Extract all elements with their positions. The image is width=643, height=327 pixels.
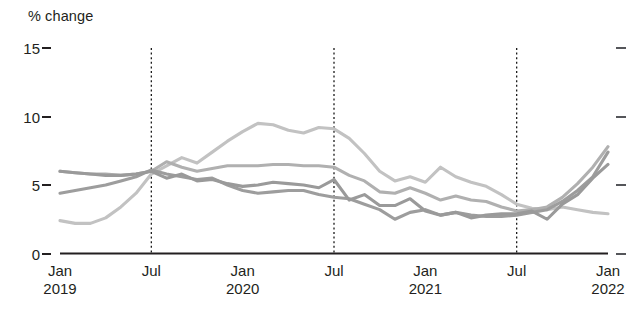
y-tick-mark-10: [42, 116, 51, 118]
x-tick-month: Jan: [596, 262, 620, 279]
line-chart: % change 051015 Jan2019JulJan2020JulJan2…: [0, 0, 643, 327]
x-tick-month: Jan: [48, 262, 72, 279]
y-tick-mark-right-10: [616, 116, 626, 118]
x-tick-label-2020-07: Jul: [324, 262, 343, 280]
y-tick-mark-right-0: [616, 253, 626, 255]
y-tick-mark-5: [42, 184, 51, 186]
y-tick-mark-0: [42, 253, 51, 255]
x-tick-month: Jul: [324, 262, 343, 279]
x-tick-label-2019-01: Jan2019: [43, 262, 76, 297]
x-tick-label-2019-07: Jul: [142, 262, 161, 280]
x-tick-month: Jul: [507, 262, 526, 279]
x-tick-year: 2021: [409, 280, 442, 298]
y-tick-label-10: 10: [0, 108, 40, 125]
x-tick-month: Jul: [142, 262, 161, 279]
x-tick-label-2021-01: Jan2021: [409, 262, 442, 297]
y-tick-mark-15: [42, 47, 51, 49]
y-tick-mark-right-5: [616, 184, 626, 186]
divider-lines-group: [151, 48, 516, 254]
x-tick-label-2022-01: Jan2022: [591, 262, 624, 297]
y-tick-label-5: 5: [0, 177, 40, 194]
y-tick-label-15: 15: [0, 40, 40, 57]
y-tick-mark-right-15: [616, 47, 626, 49]
x-tick-year: 2022: [591, 280, 624, 298]
x-tick-label-2020-01: Jan2020: [226, 262, 259, 297]
x-tick-month: Jan: [413, 262, 437, 279]
x-tick-year: 2019: [43, 280, 76, 298]
x-tick-month: Jan: [231, 262, 255, 279]
x-tick-year: 2020: [226, 280, 259, 298]
y-tick-label-0: 0: [0, 245, 40, 262]
x-tick-label-2021-07: Jul: [507, 262, 526, 280]
chart-plot-area: [0, 0, 643, 327]
